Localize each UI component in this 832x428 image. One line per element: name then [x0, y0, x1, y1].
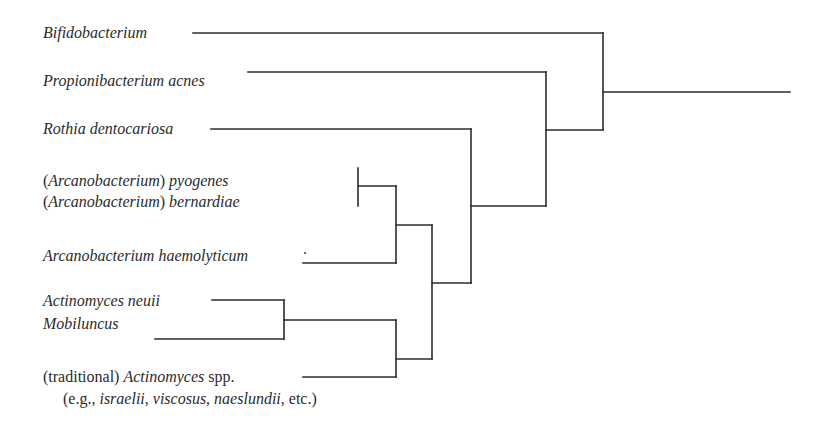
taxon-arcano-bernardiae: (Arcanobacterium) bernardiae	[43, 193, 240, 211]
species: bernardiae	[169, 193, 240, 210]
taxon-traditional-actinomyces-examples: (e.g., israelii, viscosus, naeslundii, e…	[63, 390, 317, 408]
example-naeslundii: naeslundii	[214, 390, 281, 407]
taxon-arcano-pyogenes: (Arcanobacterium) pyogenes	[43, 172, 229, 190]
paren-close: )	[160, 172, 169, 189]
sep: ,	[145, 390, 153, 407]
examples-open: (e.g.,	[63, 390, 99, 407]
sep: ,	[206, 390, 214, 407]
suffix: spp.	[204, 368, 234, 385]
example-israelii: israelii	[99, 390, 144, 407]
taxon-rothia: Rothia dentocariosa	[43, 120, 173, 138]
taxon-mobiluncus: Mobiluncus	[43, 315, 119, 333]
taxon-propionibacterium: Propionibacterium acnes	[43, 72, 205, 90]
taxon-actinomyces-neuii: Actinomyces neuii	[43, 292, 160, 310]
taxon-bifidobacterium: Bifidobacterium	[43, 24, 147, 42]
stray-dot	[304, 252, 306, 254]
taxon-traditional-actinomyces: (traditional) Actinomyces spp.	[43, 368, 235, 386]
prefix: (traditional)	[43, 368, 123, 385]
phylogenetic-tree-diagram: Bifidobacterium Propionibacterium acnes …	[0, 0, 832, 428]
genus: Arcanobacterium	[48, 193, 159, 210]
examples-close: , etc.)	[281, 390, 317, 407]
tree-branches	[0, 0, 832, 428]
taxon-arcano-haemolyticum: Arcanobacterium haemolyticum	[43, 247, 248, 265]
genus: Arcanobacterium	[48, 172, 159, 189]
species: pyogenes	[169, 172, 229, 189]
genus: Actinomyces	[123, 368, 204, 385]
paren-close: )	[160, 193, 169, 210]
example-viscosus: viscosus	[153, 390, 206, 407]
